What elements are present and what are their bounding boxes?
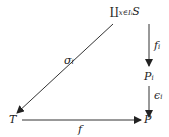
label-sigma-i: σi (64, 55, 74, 66)
node-t: T (9, 114, 16, 125)
arrow-sigma-i (17, 24, 113, 113)
node-coproduct: ∐x∈IiS (110, 6, 140, 17)
label-f: f (78, 124, 82, 135)
node-p: P (144, 114, 151, 125)
label-f-i: fi (154, 40, 160, 51)
label-epsilon-i: ϵi (154, 90, 162, 101)
node-p-i: Pi (144, 71, 154, 82)
